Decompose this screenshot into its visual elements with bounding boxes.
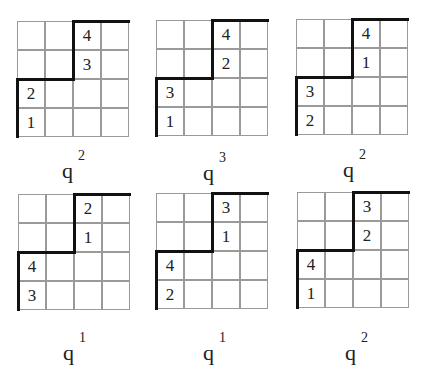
- grid-cell: [102, 252, 130, 281]
- grid-cell: [101, 108, 129, 137]
- grid-cell: [352, 106, 380, 135]
- grid-cell: [325, 192, 353, 221]
- boundary-path: [72, 20, 75, 80]
- grid-cell: [156, 20, 184, 49]
- grid-cell: [353, 279, 381, 308]
- grid-cell: [46, 194, 74, 223]
- boundary-path: [73, 193, 76, 253]
- grid-cell: [45, 50, 73, 79]
- grid-cell: 4: [352, 19, 380, 48]
- grid-cell: [46, 281, 74, 310]
- grid-cell: [297, 192, 325, 221]
- grid-cell: [17, 50, 45, 79]
- grid: 3142: [156, 193, 268, 309]
- boundary-path: [155, 77, 158, 137]
- grid-cell: [102, 223, 130, 252]
- grid-cell: [240, 222, 268, 251]
- grid-cell: [156, 49, 184, 78]
- grid-cell: [212, 280, 240, 309]
- grid-cell: [156, 222, 184, 251]
- grid-cell: [46, 252, 74, 281]
- grid-cell: [184, 222, 212, 251]
- grid-cell: [240, 78, 268, 107]
- tableau-panel-6: 3241: [297, 192, 409, 362]
- grid-cell: 2: [156, 280, 184, 309]
- boundary-path: [17, 251, 76, 254]
- grid-cell: [381, 192, 409, 221]
- grid-cell: 1: [297, 279, 325, 308]
- grid-cell: [184, 107, 212, 136]
- weight-base: q: [345, 340, 356, 366]
- grid-cell: [17, 21, 45, 50]
- grid-cell: 4: [297, 250, 325, 279]
- grid-cell: [352, 77, 380, 106]
- boundary-path: [211, 19, 269, 22]
- grid-cell: [46, 223, 74, 252]
- grid-cell: [380, 106, 408, 135]
- grid-cell: [45, 79, 73, 108]
- boundary-path: [352, 191, 355, 251]
- grid-cell: [184, 251, 212, 280]
- boundary-path: [155, 250, 214, 253]
- grid-cell: 2: [212, 49, 240, 78]
- grid-cell: 3: [73, 50, 101, 79]
- boundary-path: [16, 78, 75, 81]
- grid: 4231: [156, 20, 268, 136]
- grid: 3241: [297, 192, 409, 308]
- grid-cell: [184, 280, 212, 309]
- weight-exponent: 1: [219, 330, 226, 346]
- grid-cell: [156, 193, 184, 222]
- boundary-path: [296, 249, 299, 309]
- weight-base: q: [62, 158, 73, 184]
- grid-cell: [101, 21, 129, 50]
- grid-cell: [74, 252, 102, 281]
- grid-cell: [240, 280, 268, 309]
- grid-cell: [73, 108, 101, 137]
- grid-cell: 4: [73, 21, 101, 50]
- boundary-path: [155, 250, 158, 310]
- boundary-path: [351, 18, 354, 78]
- grid-cell: [297, 221, 325, 250]
- grid-cell: 2: [74, 194, 102, 223]
- grid-cell: [18, 194, 46, 223]
- grid-cell: [102, 281, 130, 310]
- grid-cell: 1: [74, 223, 102, 252]
- grid-cell: 3: [353, 192, 381, 221]
- grid-cell: [240, 193, 268, 222]
- grid: 2143: [18, 194, 130, 310]
- weight-base: q: [203, 160, 214, 186]
- weight-base: q: [63, 340, 74, 366]
- grid-cell: [240, 20, 268, 49]
- weight-base: q: [343, 157, 354, 183]
- grid-cell: [184, 193, 212, 222]
- weight-exponent: 2: [78, 148, 85, 164]
- boundary-path: [295, 76, 298, 136]
- weight-base: q: [203, 340, 214, 366]
- weight-exponent: 1: [79, 330, 86, 346]
- boundary-path: [211, 192, 214, 252]
- grid-cell: 1: [212, 222, 240, 251]
- grid-cell: [381, 221, 409, 250]
- grid-cell: 1: [156, 107, 184, 136]
- grid-cell: [380, 48, 408, 77]
- grid-cell: [18, 223, 46, 252]
- tableau-panel-4: 2143: [18, 194, 130, 364]
- grid-cell: [74, 281, 102, 310]
- tableau-panel-1: 4321: [17, 21, 129, 191]
- boundary-path: [155, 77, 214, 80]
- grid-cell: [45, 108, 73, 137]
- grid-cell: [73, 79, 101, 108]
- grid-cell: [240, 251, 268, 280]
- grid-cell: [381, 250, 409, 279]
- grid-cell: [381, 279, 409, 308]
- grid-cell: [184, 20, 212, 49]
- grid-cell: [240, 49, 268, 78]
- grid-cell: [324, 77, 352, 106]
- grid-cell: 4: [18, 252, 46, 281]
- grid-cell: [296, 48, 324, 77]
- grid-cell: 2: [296, 106, 324, 135]
- grid-cell: [101, 79, 129, 108]
- grid: 4321: [17, 21, 129, 137]
- grid-cell: 1: [352, 48, 380, 77]
- boundary-path: [211, 19, 214, 79]
